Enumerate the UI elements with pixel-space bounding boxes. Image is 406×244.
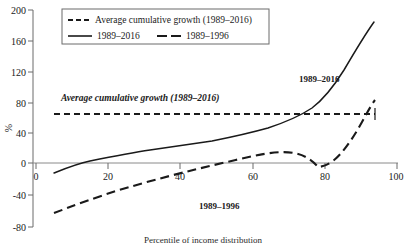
chart-legend: Average cumulative growth (1989–2016) 19… <box>62 9 269 44</box>
annotation-1989-2016: 1989–2016 <box>299 74 340 84</box>
annotation-1989-1996: 1989–1996 <box>199 201 240 211</box>
y-tick-label-0: 0 <box>21 158 26 169</box>
y-tick-label-neg40: -40 <box>13 190 26 201</box>
y-tick-label-80: 80 <box>16 98 26 109</box>
x-tick-label-100: 100 <box>389 171 404 182</box>
y-tick-label-120: 120 <box>11 67 26 78</box>
y-tick-label-neg80: -80 <box>13 222 26 233</box>
series-average-cumulative-growth <box>54 108 375 120</box>
legend-label-1989-1996: 1989–1996 <box>186 31 229 41</box>
x-tick-label-80: 80 <box>320 171 330 182</box>
y-tick-label-160: 160 <box>11 36 26 47</box>
y-axis <box>28 10 33 227</box>
growth-line-chart: 200 160 120 80 40 0 -40 -80 0 20 40 60 8… <box>0 0 406 244</box>
y-tick-label-40: 40 <box>16 128 26 139</box>
series-1989-1996 <box>54 100 375 213</box>
x-tick-label-0: 0 <box>34 171 39 182</box>
legend-label-average-cumulative-growth: Average cumulative growth (1989–2016) <box>95 15 252 26</box>
x-tick-label-60: 60 <box>248 171 258 182</box>
annotation-average-cumulative-growth: Average cumulative growth (1989–2016) <box>60 93 219 104</box>
x-axis-title: Percentile of income distribution <box>144 235 263 244</box>
legend-item-average-cumulative-growth[interactable]: Average cumulative growth (1989–2016) <box>68 15 252 26</box>
y-tick-label-200: 200 <box>11 5 26 16</box>
chart-container: 200 160 120 80 40 0 -40 -80 0 20 40 60 8… <box>0 0 406 244</box>
legend-label-1989-2016: 1989–2016 <box>97 31 140 41</box>
y-axis-title: % <box>3 124 14 132</box>
x-tick-label-20: 20 <box>103 171 113 182</box>
